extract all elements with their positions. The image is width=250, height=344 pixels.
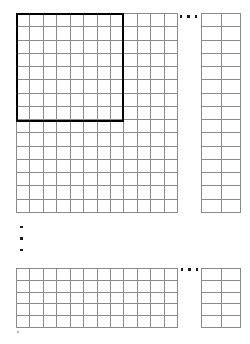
grid-cell[interactable] bbox=[84, 80, 97, 93]
grid-cell[interactable] bbox=[98, 120, 111, 133]
grid-cell[interactable] bbox=[202, 304, 222, 316]
bottom-row-grid[interactable] bbox=[16, 268, 178, 328]
grid-cell[interactable] bbox=[71, 67, 84, 80]
grid-cell[interactable] bbox=[17, 14, 30, 27]
grid-cell[interactable] bbox=[124, 186, 137, 199]
grid-cell[interactable] bbox=[111, 41, 124, 54]
grid-cell[interactable] bbox=[30, 200, 43, 213]
grid-cell[interactable] bbox=[57, 281, 70, 293]
grid-cell[interactable] bbox=[124, 120, 137, 133]
grid-cell[interactable] bbox=[111, 80, 124, 93]
grid-cell[interactable] bbox=[111, 107, 124, 120]
grid-cell[interactable] bbox=[84, 107, 97, 120]
grid-cell[interactable] bbox=[30, 14, 43, 27]
grid-cell[interactable] bbox=[202, 269, 222, 281]
grid-cell[interactable] bbox=[111, 281, 124, 293]
grid-cell[interactable] bbox=[17, 304, 30, 316]
grid-cell[interactable] bbox=[111, 173, 124, 186]
grid-cell[interactable] bbox=[84, 94, 97, 107]
grid-cell[interactable] bbox=[165, 281, 178, 293]
grid-cell[interactable] bbox=[30, 27, 43, 40]
grid-cell[interactable] bbox=[30, 281, 43, 293]
grid-cell[interactable] bbox=[98, 160, 111, 173]
grid-cell[interactable] bbox=[138, 120, 151, 133]
grid-cell[interactable] bbox=[17, 160, 30, 173]
grid-cell[interactable] bbox=[138, 304, 151, 316]
grid-cell[interactable] bbox=[98, 94, 111, 107]
grid-cell[interactable] bbox=[151, 200, 164, 213]
grid-cell[interactable] bbox=[84, 147, 97, 160]
grid-cell[interactable] bbox=[222, 200, 242, 213]
grid-cell[interactable] bbox=[165, 54, 178, 67]
grid-cell[interactable] bbox=[17, 54, 30, 67]
grid-cell[interactable] bbox=[44, 293, 57, 305]
grid-cell[interactable] bbox=[71, 107, 84, 120]
grid-cell[interactable] bbox=[165, 173, 178, 186]
grid-cell[interactable] bbox=[151, 281, 164, 293]
grid-cell[interactable] bbox=[84, 269, 97, 281]
grid-cell[interactable] bbox=[165, 120, 178, 133]
grid-cell[interactable] bbox=[151, 27, 164, 40]
grid-cell[interactable] bbox=[165, 94, 178, 107]
grid-cell[interactable] bbox=[165, 269, 178, 281]
grid-cell[interactable] bbox=[151, 133, 164, 146]
grid-cell[interactable] bbox=[84, 54, 97, 67]
grid-cell[interactable] bbox=[71, 133, 84, 146]
grid-cell[interactable] bbox=[138, 293, 151, 305]
grid-cell[interactable] bbox=[17, 173, 30, 186]
grid-cell[interactable] bbox=[17, 41, 30, 54]
grid-cell[interactable] bbox=[98, 269, 111, 281]
grid-cell[interactable] bbox=[138, 316, 151, 328]
grid-cell[interactable] bbox=[71, 269, 84, 281]
grid-cell[interactable] bbox=[98, 80, 111, 93]
grid-cell[interactable] bbox=[30, 107, 43, 120]
grid-cell[interactable] bbox=[71, 186, 84, 199]
grid-cell[interactable] bbox=[138, 200, 151, 213]
grid-cell[interactable] bbox=[111, 293, 124, 305]
grid-cell[interactable] bbox=[44, 160, 57, 173]
grid-cell[interactable] bbox=[84, 41, 97, 54]
grid-cell[interactable] bbox=[17, 120, 30, 133]
grid-cell[interactable] bbox=[17, 94, 30, 107]
grid-cell[interactable] bbox=[111, 54, 124, 67]
grid-cell[interactable] bbox=[57, 27, 70, 40]
grid-cell[interactable] bbox=[30, 293, 43, 305]
grid-cell[interactable] bbox=[71, 316, 84, 328]
grid-cell[interactable] bbox=[151, 120, 164, 133]
grid-cell[interactable] bbox=[71, 94, 84, 107]
grid-cell[interactable] bbox=[71, 14, 84, 27]
grid-cell[interactable] bbox=[138, 67, 151, 80]
grid-cell[interactable] bbox=[151, 67, 164, 80]
grid-cell[interactable] bbox=[30, 133, 43, 146]
grid-cell[interactable] bbox=[57, 304, 70, 316]
grid-cell[interactable] bbox=[222, 107, 242, 120]
grid-cell[interactable] bbox=[165, 147, 178, 160]
grid-cell[interactable] bbox=[124, 107, 137, 120]
grid-cell[interactable] bbox=[84, 293, 97, 305]
grid-cell[interactable] bbox=[44, 54, 57, 67]
grid-cell[interactable] bbox=[138, 160, 151, 173]
grid-cell[interactable] bbox=[138, 80, 151, 93]
grid-cell[interactable] bbox=[202, 14, 222, 27]
grid-cell[interactable] bbox=[151, 14, 164, 27]
grid-cell[interactable] bbox=[17, 80, 30, 93]
grid-cell[interactable] bbox=[111, 27, 124, 40]
grid-cell[interactable] bbox=[222, 27, 242, 40]
grid-cell[interactable] bbox=[98, 186, 111, 199]
grid-cell[interactable] bbox=[222, 173, 242, 186]
grid-cell[interactable] bbox=[151, 304, 164, 316]
grid-cell[interactable] bbox=[222, 133, 242, 146]
grid-cell[interactable] bbox=[44, 80, 57, 93]
grid-cell[interactable] bbox=[30, 147, 43, 160]
grid-cell[interactable] bbox=[84, 304, 97, 316]
grid-cell[interactable] bbox=[111, 147, 124, 160]
grid-cell[interactable] bbox=[30, 41, 43, 54]
grid-cell[interactable] bbox=[151, 54, 164, 67]
grid-cell[interactable] bbox=[111, 269, 124, 281]
grid-cell[interactable] bbox=[98, 133, 111, 146]
grid-cell[interactable] bbox=[71, 80, 84, 93]
grid-cell[interactable] bbox=[151, 80, 164, 93]
grid-cell[interactable] bbox=[44, 120, 57, 133]
grid-cell[interactable] bbox=[111, 186, 124, 199]
grid-cell[interactable] bbox=[57, 200, 70, 213]
